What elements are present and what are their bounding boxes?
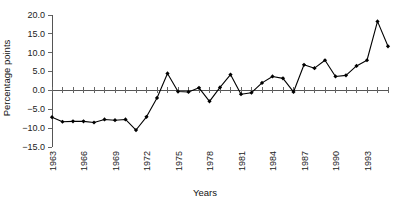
x-tick-label: 1972 <box>142 151 152 171</box>
y-tick-label: −10.0 <box>22 123 45 133</box>
data-point-marker <box>60 120 64 124</box>
x-tick-label: 1966 <box>79 151 89 171</box>
data-point-marker <box>102 117 106 121</box>
x-axis-title: Years <box>193 187 217 198</box>
x-tick-label: 1987 <box>300 151 310 171</box>
data-point-marker <box>92 120 96 124</box>
x-tick-label: 1975 <box>174 151 184 171</box>
y-axis-title: Percentage points <box>1 39 12 116</box>
series-line-percentage-points <box>52 21 388 130</box>
data-point-marker <box>365 58 369 62</box>
data-point-marker <box>239 92 243 96</box>
y-axis-group: 20.015.010.05.00.0−5.0−10.0−15.0 <box>22 10 52 152</box>
x-tick-label: 1993 <box>363 151 373 171</box>
data-point-marker <box>81 119 85 123</box>
y-tick-label: −5.0 <box>27 104 45 114</box>
y-tick-label: 0.0 <box>32 85 45 95</box>
x-tick-label: 1969 <box>111 151 121 171</box>
x-tick-label: 1984 <box>268 151 278 171</box>
data-point-marker <box>113 118 117 122</box>
y-tick-label: 10.0 <box>27 48 45 58</box>
chart-container: 20.015.010.05.00.0−5.0−10.0−15.0 1963196… <box>0 0 401 201</box>
x-axis-group: 1963196619691972197519781981198419871990… <box>48 87 389 171</box>
y-tick-label: 15.0 <box>27 29 45 39</box>
x-tick-label: 1978 <box>205 151 215 171</box>
y-tick-label: 20.0 <box>27 10 45 20</box>
x-axis-tick-labels: 1963196619691972197519781981198419871990… <box>48 151 373 171</box>
data-point-marker <box>375 19 379 23</box>
data-point-marker <box>386 44 390 48</box>
percentage-points-line-chart: 20.015.010.05.00.0−5.0−10.0−15.0 1963196… <box>0 0 401 201</box>
y-tick-label: 5.0 <box>32 66 45 76</box>
data-point-marker <box>50 115 54 119</box>
x-tick-label: 1963 <box>48 151 58 171</box>
x-tick-label: 1990 <box>331 151 341 171</box>
data-point-marker <box>155 96 159 100</box>
x-tick-label: 1981 <box>237 151 247 171</box>
y-axis-tick-marks <box>48 15 52 147</box>
data-point-marker <box>71 119 75 123</box>
data-point-marker <box>302 63 306 67</box>
y-tick-label: −15.0 <box>22 142 45 152</box>
y-axis-tick-labels: 20.015.010.05.00.0−5.0−10.0−15.0 <box>22 10 45 152</box>
plot-series-group <box>50 19 390 132</box>
